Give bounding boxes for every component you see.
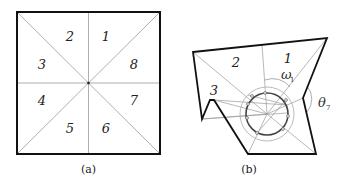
- sector-label-1: 1: [102, 29, 110, 44]
- sector-label-6: 6: [102, 121, 110, 136]
- panel-b: 123 ω 1 θ 7 (b): [193, 38, 330, 176]
- sector-label-5: 5: [66, 121, 74, 136]
- sector-label-4: 4: [37, 93, 46, 108]
- figure: 12345678 (a): [0, 0, 343, 185]
- sector-label-8: 8: [130, 57, 138, 72]
- region-label-3: 3: [210, 83, 218, 98]
- panel-a: 12345678 (a): [17, 12, 160, 176]
- region-label-1: 1: [284, 51, 292, 66]
- center-point: [87, 82, 90, 85]
- theta-arc: [307, 86, 312, 112]
- caption-b: (b): [241, 163, 257, 176]
- region-labels: 123: [210, 51, 292, 98]
- sector-label-7: 7: [130, 93, 139, 108]
- theta-subscript: 7: [326, 104, 330, 112]
- region-label-2: 2: [231, 55, 240, 70]
- caption-a: (a): [81, 163, 96, 176]
- sector-label-3: 3: [38, 57, 46, 72]
- sector-label-2: 2: [65, 29, 74, 44]
- omega-subscript: 1: [290, 76, 294, 84]
- theta-label: θ: [318, 95, 326, 110]
